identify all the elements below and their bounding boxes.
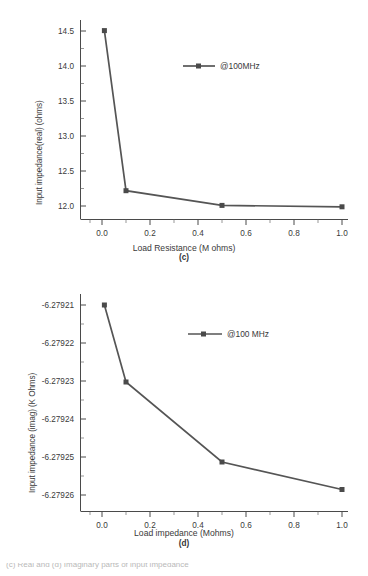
y-tick-label-d-5: -6.27926 [42,491,75,500]
y-tick-label-c-4: 12.5 [58,167,74,176]
y-tick-label-c-2: 13.5 [58,97,74,106]
series-markers-d [102,303,345,493]
x-tick-label-c-4: 0.8 [288,229,300,238]
legend-d: @100 MHz [188,329,269,339]
y-tick-label-c-1: 14.0 [58,62,74,71]
chart-d-svg: -6.27921 -6.27922 -6.27923 -6.27924 -6.2… [0,268,368,558]
legend-label-d: @100 MHz [227,329,269,339]
x-tick-label-c-2: 0.4 [192,229,204,238]
x-axis-label-c: Load Resistance (M ohms) [0,243,368,253]
legend-marker-swatch-d [201,332,206,337]
y-tick-label-d-3: -6.27924 [42,415,75,424]
y-tick-label-d-0: -6.27921 [42,301,75,310]
series-line-c [104,31,342,207]
page-caption-strip: (c) Real and (d) Imaginary parts of inpu… [0,563,368,576]
x-tick-label-c-3: 0.6 [240,229,252,238]
figure-panel-d: -6.27921 -6.27922 -6.27923 -6.27924 -6.2… [0,268,368,558]
series-markers-c [102,28,345,209]
caption-fragment: (c) Real and (d) Imaginary parts of inpu… [6,563,189,569]
y-tick-label-d-1: -6.27922 [42,339,75,348]
y-axis-label-d: Input impedance (imag) (K Ohms) [28,373,37,493]
legend-label-c: @100MHz [220,61,260,71]
y-tick-label-d-4: -6.27925 [42,453,75,462]
panel-letter-c: (c) [0,253,368,262]
y-minor-ticks-d [81,324,85,476]
legend-c: @100MHz [183,61,260,71]
figure-panel-c: 14.5 14.0 13.5 13.0 12.5 12.0 [0,0,368,268]
chart-c-svg: 14.5 14.0 13.5 13.0 12.5 12.0 [0,0,368,268]
x-axis-label-d: Load impedance (Mohms) [0,528,368,538]
x-tick-label-c-0: 0.0 [96,229,108,238]
y-axis-label-c: Input impedance(real) (ohms) [35,100,44,205]
panel-letter-d: (d) [0,539,368,548]
plot-area-c: 14.5 14.0 13.5 13.0 12.5 12.0 [0,0,368,268]
x-minor-ticks-c [90,220,318,224]
y-minor-ticks-c [81,49,85,189]
y-tick-label-c-3: 13.0 [58,132,74,141]
y-tick-label-c-0: 14.5 [58,27,74,36]
legend-marker-swatch-c [196,64,201,69]
y-tick-label-c-5: 12.0 [58,202,74,211]
plot-area-d: -6.27921 -6.27922 -6.27923 -6.27924 -6.2… [0,268,368,558]
x-minor-ticks-d [90,512,318,516]
y-tick-label-d-2: -6.27923 [42,377,75,386]
x-tick-label-c-5: 1.0 [336,229,348,238]
x-tick-label-c-1: 0.2 [144,229,156,238]
